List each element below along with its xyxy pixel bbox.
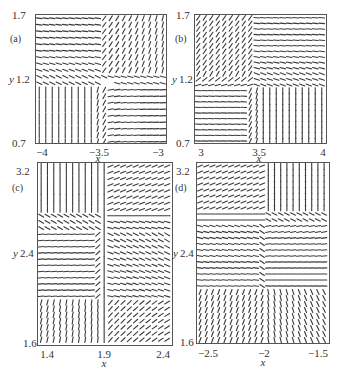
plot-area-b [194, 14, 327, 144]
x-axis-label-d: x [261, 357, 266, 368]
y-axis-label-a: y [9, 74, 14, 85]
xtick-left-c: 1.4 [40, 349, 54, 360]
xtick-left-b: 3 [198, 147, 204, 158]
vector-field-c [38, 163, 172, 345]
plot-area-a [35, 14, 167, 144]
ytick-top-c: 3.2 [16, 166, 30, 177]
ytick-bot-a: 0.7 [12, 138, 26, 149]
y-axis-label-b: y [172, 74, 177, 85]
xtick-right-a: −3 [152, 147, 164, 158]
x-axis-label-c: x [102, 358, 107, 369]
ytick-top-a: 1.7 [12, 10, 26, 21]
y-axis-label-c: y [13, 248, 18, 259]
ytick-top-b: 1.7 [176, 10, 190, 21]
ytick-bot-d: 1.6 [180, 337, 194, 348]
xtick-right-c: 2.4 [156, 349, 170, 360]
ytick-bot-c: 1.6 [23, 338, 37, 349]
xtick-right-b: 4 [320, 147, 326, 158]
ytick-mid-a: 1.2 [16, 74, 30, 85]
ytick-mid-c: 2.4 [20, 248, 34, 259]
panel-label-c: (c) [12, 183, 23, 193]
ytick-top-d: 3.2 [176, 166, 190, 177]
plot-area-c [37, 162, 173, 346]
panel-label-a: (a) [10, 34, 21, 44]
vector-field-b [195, 15, 326, 143]
plot-area-d [196, 162, 330, 344]
panel-label-d: (d) [175, 183, 187, 193]
xtick-left-d: −2.5 [198, 348, 218, 359]
xtick-right-d: −1.5 [308, 348, 328, 359]
vector-field-d [197, 163, 329, 343]
panel-label-b: (b) [175, 34, 187, 44]
y-axis-label-d: y [173, 248, 178, 259]
ytick-mid-b: 1.2 [179, 74, 193, 85]
vector-field-a [36, 15, 166, 143]
xtick-left-a: −4 [36, 147, 48, 158]
ytick-bot-b: 0.7 [176, 138, 190, 149]
ytick-mid-d: 2.4 [180, 248, 194, 259]
